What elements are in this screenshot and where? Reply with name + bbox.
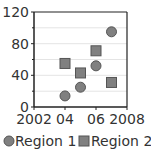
y-label-40: 40 (11, 67, 29, 83)
legend-label-region-2: Region 2 (91, 133, 151, 149)
circle-marker-icon (107, 27, 117, 37)
y-axis-labels: 120 80 40 0 (2, 4, 29, 115)
square-marker-icon (107, 77, 117, 87)
x-label-2008: 2008 (109, 111, 145, 127)
square-marker-icon (60, 58, 70, 68)
y-label-120: 120 (2, 4, 29, 20)
scatter-chart: 120 80 40 0 2002 04 06 2008 Region 1 Reg… (0, 0, 151, 158)
legend-circle-icon (4, 136, 14, 146)
circle-marker-icon (91, 61, 101, 71)
square-marker-icon (91, 46, 101, 56)
x-label-2002: 2002 (16, 111, 52, 127)
data-markers (60, 27, 117, 101)
y-label-80: 80 (11, 36, 29, 52)
legend-square-icon (79, 136, 89, 146)
legend-label-region-1: Region 1 (15, 133, 76, 149)
circle-marker-icon (60, 91, 70, 101)
legend: Region 1 Region 2 (4, 133, 151, 149)
circle-marker-icon (76, 82, 86, 92)
x-label-06: 06 (87, 111, 105, 127)
x-axis-labels: 2002 04 06 2008 (16, 111, 145, 127)
x-label-04: 04 (56, 111, 74, 127)
square-marker-icon (76, 68, 86, 78)
